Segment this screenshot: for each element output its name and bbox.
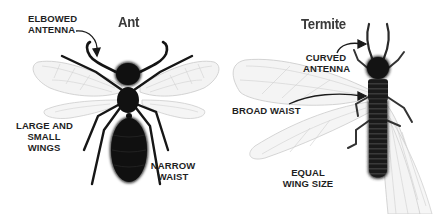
- ant-antenna-label-line1: ELBOWED: [28, 13, 77, 24]
- termite-title: Termite: [301, 15, 346, 32]
- termite-antennae: [367, 24, 388, 58]
- ant-antenna-label: ELBOWED ANTENNA: [28, 13, 77, 35]
- ant-vs-termite-diagram: Ant Termite ELBOWED ANTENNA LARGE AND SM…: [0, 0, 435, 214]
- ant-waist-label-line2: WAIST: [150, 171, 196, 182]
- ant-title: Ant: [118, 13, 139, 30]
- ant-antenna-label-line2: ANTENNA: [28, 24, 77, 35]
- termite-waist-label: BROAD WAIST: [232, 105, 301, 116]
- ant-wings-label-line2: SMALL: [16, 131, 72, 142]
- ant-body: [110, 62, 148, 183]
- ant-wings-label: LARGE AND SMALL WINGS: [16, 120, 72, 153]
- termite-antenna-label-line2: ANTENNA: [303, 63, 349, 74]
- ant-waist-label-line1: NARROW: [150, 160, 196, 171]
- ant-waist-label: NARROW WAIST: [150, 160, 196, 182]
- termite-wings-label-line1: EQUAL: [280, 167, 336, 178]
- termite-antenna-label: CURVED ANTENNA: [303, 52, 349, 74]
- termite-wings-label: EQUAL WING SIZE: [280, 167, 336, 189]
- termite-body: [366, 56, 390, 179]
- ant-wings-label-line3: WINGS: [16, 142, 72, 153]
- termite-right-wing: [381, 100, 432, 214]
- termite-antenna-label-line1: CURVED: [303, 52, 349, 63]
- ant-wings-label-line1: LARGE AND: [16, 120, 72, 131]
- termite-wings-label-line2: WING SIZE: [280, 178, 336, 189]
